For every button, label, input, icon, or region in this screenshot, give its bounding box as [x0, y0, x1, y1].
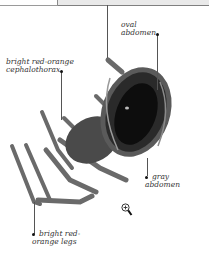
label-oval-abdomen: oval abdomen [121, 21, 156, 37]
leader-cephalothorax [61, 72, 62, 120]
label-cephalothorax: bright red-orange cephalothorax [6, 58, 74, 74]
leader-oval-abdomen [157, 35, 158, 90]
spider-illustration [0, 0, 209, 256]
dot-oval-abdomen [156, 33, 159, 36]
leader-top [107, 5, 108, 58]
label-gray-abdomen: gray abdomen [145, 173, 180, 189]
label-legs: bright red- orange legs [32, 230, 80, 246]
magnifier-plus-icon[interactable] [121, 203, 133, 217]
